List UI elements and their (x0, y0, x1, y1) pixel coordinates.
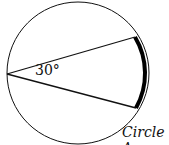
intercepted-arc (135, 37, 145, 108)
angle-label: 30° (35, 62, 60, 78)
circle-a (7, 2, 149, 144)
chord-lower (7, 74, 136, 108)
circle-caption: Circle A (122, 124, 169, 145)
chord-upper (7, 37, 135, 74)
